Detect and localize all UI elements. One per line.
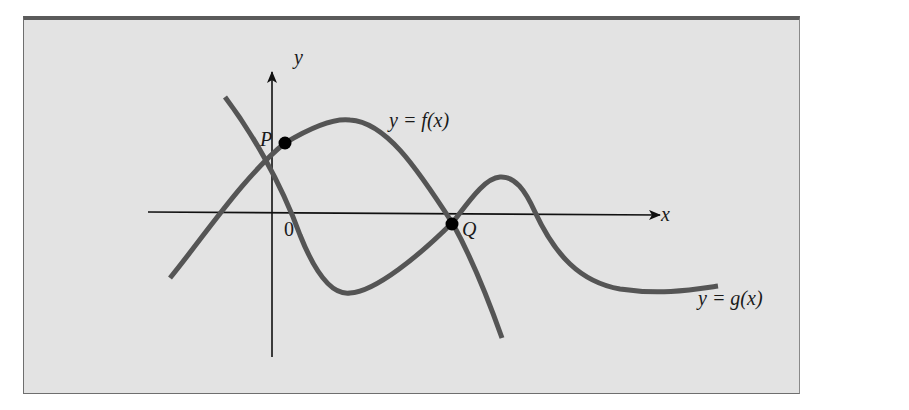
point-q [446,218,459,231]
graph-canvas: y x 0 P Q y = f(x) y = g(x) [0,0,909,410]
origin-label: 0 [284,218,294,240]
curve-g-label: y = g(x) [696,287,763,310]
point-p-label: P [259,128,272,150]
point-p [279,137,292,150]
x-axis-label: x [660,203,670,225]
x-axis [148,212,660,215]
curve-f-label: y = f(x) [387,109,449,132]
y-axis-label: y [292,46,303,69]
point-q-label: Q [462,218,477,240]
